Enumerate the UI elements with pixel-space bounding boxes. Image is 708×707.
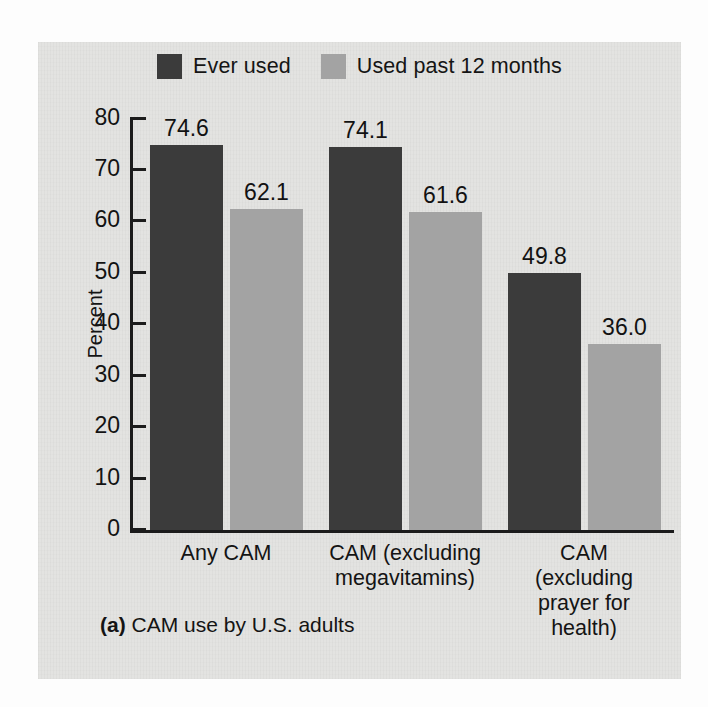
bar-value-ever-used-any-cam: 74.6	[164, 117, 209, 140]
x-axis-line	[130, 530, 674, 533]
figure-caption-tag: (a)	[100, 613, 126, 636]
bar-ever-used-excluding-prayer: 49.8	[508, 273, 581, 530]
chart-legend: Ever used Used past 12 months	[38, 54, 681, 79]
y-tick-60: 60	[133, 219, 146, 222]
category-label-excluding-megavitamins: CAM (excluding megavitamins)	[329, 541, 481, 591]
y-tick-label-10: 10	[94, 466, 120, 489]
y-tick-label-0: 0	[107, 517, 120, 540]
plot-area: Percent 0 10 20 30 40 50 60	[133, 117, 674, 530]
bar-value-ever-used-excluding-megavitamins: 74.1	[343, 119, 388, 142]
category-label-excluding-prayer: CAM (excluding prayer for health)	[535, 541, 633, 642]
bar-past-12-months-excluding-megavitamins: 61.6	[409, 212, 482, 530]
legend-entry-ever-used: Ever used	[157, 54, 291, 79]
bar-past-12-months-any-cam: 62.1	[230, 209, 303, 530]
legend-swatch-ever-used	[157, 54, 182, 79]
figure-caption-text: CAM use by U.S. adults	[132, 613, 355, 636]
figure-caption: (a) CAM use by U.S. adults	[100, 613, 354, 637]
chart-panel: Ever used Used past 12 months Percent 0 …	[38, 42, 681, 679]
y-tick-label-50: 50	[94, 260, 120, 283]
y-tick-0: 0	[133, 528, 146, 531]
bar-ever-used-excluding-megavitamins: 74.1	[329, 147, 402, 530]
y-tick-10: 10	[133, 477, 146, 480]
legend-swatch-past-12-months	[321, 54, 346, 79]
bar-value-past-12-months-excluding-megavitamins: 61.6	[423, 184, 468, 207]
y-tick-label-20: 20	[94, 414, 120, 437]
bar-ever-used-any-cam: 74.6	[150, 145, 223, 530]
bar-past-12-months-excluding-prayer: 36.0	[588, 344, 661, 530]
y-tick-label-30: 30	[94, 363, 120, 386]
y-tick-40: 40	[133, 322, 146, 325]
y-tick-20: 20	[133, 425, 146, 428]
figure-root: Ever used Used past 12 months Percent 0 …	[0, 0, 708, 707]
legend-entry-used-past-12-months: Used past 12 months	[321, 54, 562, 79]
y-tick-30: 30	[133, 374, 146, 377]
y-tick-label-60: 60	[94, 208, 120, 231]
y-tick-70: 70	[133, 168, 146, 171]
legend-label-used-past-12-months: Used past 12 months	[357, 54, 562, 79]
y-tick-label-70: 70	[94, 157, 120, 180]
bar-value-past-12-months-excluding-prayer: 36.0	[602, 316, 647, 339]
legend-label-ever-used: Ever used	[193, 54, 291, 79]
y-tick-80: 80	[133, 117, 146, 120]
y-tick-label-40: 40	[94, 311, 120, 334]
y-tick-50: 50	[133, 271, 146, 274]
y-tick-label-80: 80	[94, 106, 120, 129]
bar-value-ever-used-excluding-prayer: 49.8	[522, 245, 567, 268]
bar-value-past-12-months-any-cam: 62.1	[244, 181, 289, 204]
category-label-any-cam: Any CAM	[181, 541, 272, 566]
